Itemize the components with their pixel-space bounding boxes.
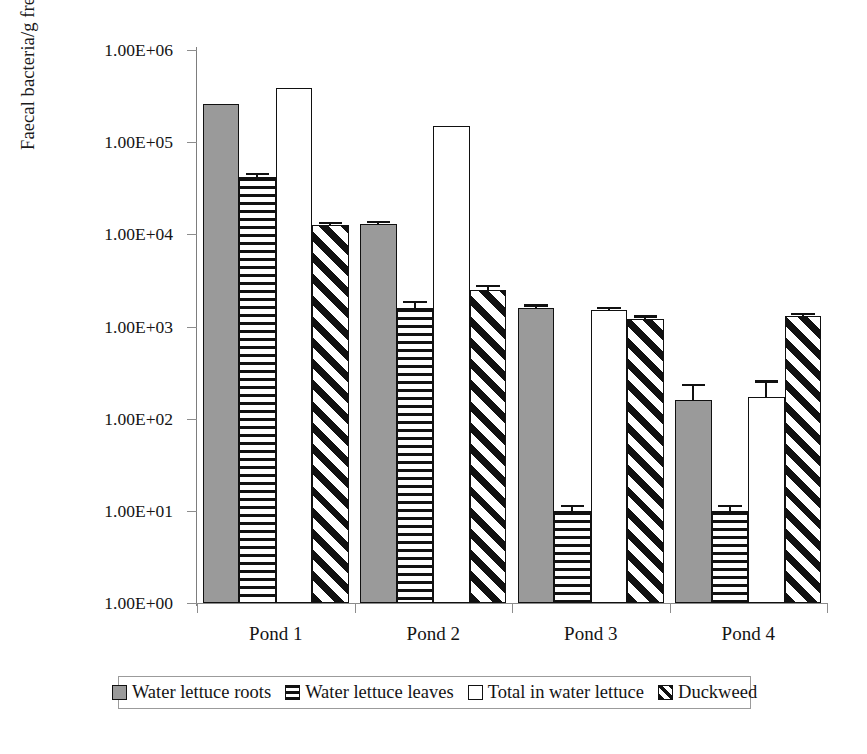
y-axis-title: Faecal bacteria/g freshweight of plant b… xyxy=(18,0,48,150)
x-tick xyxy=(512,603,513,613)
error-bar xyxy=(755,380,778,397)
y-tick: 1.00E+05 xyxy=(187,142,197,143)
error-bar-cap xyxy=(319,222,342,224)
bar xyxy=(554,511,591,603)
legend-label: Total in water lettuce xyxy=(488,682,644,703)
y-tick-label: 1.00E+06 xyxy=(104,40,173,61)
y-tick-label: 1.00E+04 xyxy=(104,224,173,245)
y-tick: 1.00E+04 xyxy=(187,234,197,235)
y-tick-label: 1.00E+03 xyxy=(104,316,173,337)
plot-area: 1.00E+061.00E+051.00E+041.00E+031.00E+02… xyxy=(197,50,827,603)
legend-label: Duckweed xyxy=(678,682,757,703)
bar xyxy=(518,308,555,603)
x-axis-category-label: Pond 4 xyxy=(722,623,775,645)
error-bar-cap xyxy=(246,173,269,175)
x-axis-category-label: Pond 3 xyxy=(564,623,617,645)
error-bar-cap xyxy=(791,313,814,315)
bar xyxy=(239,177,276,603)
bar xyxy=(470,290,507,603)
error-bar xyxy=(682,384,705,400)
error-bar-cap xyxy=(367,221,390,223)
x-tick xyxy=(197,603,198,613)
bar xyxy=(591,310,628,603)
error-bar-cap xyxy=(634,315,657,317)
bar xyxy=(397,308,434,603)
legend-swatch-icon xyxy=(468,685,483,700)
bar xyxy=(276,88,313,603)
legend-swatch-icon xyxy=(658,685,673,700)
legend-label: Water lettuce leaves xyxy=(305,682,453,703)
y-tick: 1.00E+03 xyxy=(187,327,197,328)
error-bar-stem xyxy=(765,380,767,397)
error-bar-cap xyxy=(561,505,584,507)
legend-entry: Total in water lettuce xyxy=(468,682,644,703)
y-tick: 1.00E+06 xyxy=(187,50,197,51)
bar xyxy=(675,400,712,603)
error-bar-cap xyxy=(755,380,778,382)
error-bar-cap xyxy=(682,384,705,386)
bar xyxy=(785,316,822,603)
x-axis-category-label: Pond 1 xyxy=(249,623,302,645)
y-tick-label: 1.00E+02 xyxy=(104,408,173,429)
chart-legend: Water lettuce rootsWater lettuce leavesT… xyxy=(118,676,751,709)
legend-swatch-icon xyxy=(285,685,300,700)
x-axis-category-label: Pond 2 xyxy=(407,623,460,645)
x-tick xyxy=(827,603,828,613)
bar xyxy=(360,224,397,603)
bar xyxy=(433,126,470,603)
y-tick-label: 1.00E+01 xyxy=(104,500,173,521)
bar xyxy=(203,104,240,603)
error-bar-cap xyxy=(476,285,499,287)
y-tick-label: 1.00E+05 xyxy=(104,132,173,153)
error-bar-cap xyxy=(403,301,426,303)
error-bar-stem xyxy=(692,384,694,400)
error-bar-cap xyxy=(597,307,620,309)
y-tick: 1.00E+01 xyxy=(187,511,197,512)
legend-entry: Water lettuce roots xyxy=(112,682,271,703)
error-bar-cap xyxy=(718,505,741,507)
x-tick xyxy=(355,603,356,613)
legend-label: Water lettuce roots xyxy=(132,682,271,703)
bar xyxy=(748,397,785,603)
y-tick: 1.00E+00 xyxy=(187,603,197,604)
error-bar-stem xyxy=(414,301,416,308)
y-tick-label: 1.00E+00 xyxy=(104,593,173,614)
legend-swatch-icon xyxy=(112,685,127,700)
bar xyxy=(312,225,349,603)
x-tick xyxy=(670,603,671,613)
y-tick: 1.00E+02 xyxy=(187,419,197,420)
figure-chart: Faecal bacteria/g freshweight of plant b… xyxy=(0,0,867,754)
bar xyxy=(627,319,664,603)
legend-entry: Duckweed xyxy=(658,682,757,703)
error-bar-cap xyxy=(524,304,547,306)
legend-entry: Water lettuce leaves xyxy=(285,682,453,703)
bar xyxy=(712,511,749,603)
error-bar xyxy=(403,301,426,308)
